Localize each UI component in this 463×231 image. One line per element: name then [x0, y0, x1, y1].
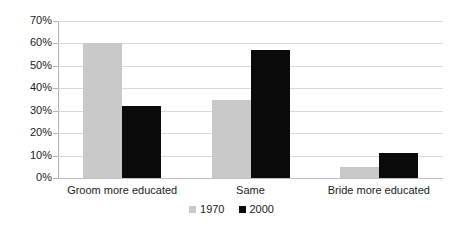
y-axis-tick-label: 0%	[6, 172, 52, 183]
gridline-baseline	[58, 178, 443, 179]
legend-item-1970: 1970	[189, 204, 224, 215]
bar-1970-1	[83, 43, 122, 178]
legend-swatch-1970-icon	[189, 206, 196, 213]
x-axis-category-label: Same	[186, 183, 314, 197]
bar-1970-2	[212, 100, 251, 179]
legend-label-1970: 1970	[200, 204, 224, 215]
y-axis-tick-label: 60%	[6, 37, 52, 48]
y-axis-tick-label: 30%	[6, 105, 52, 116]
bar-2000-2	[251, 50, 290, 178]
bar-1970-3	[340, 167, 379, 178]
y-axis-tick-label: 40%	[6, 82, 52, 93]
x-axis-category-labels: Groom more educatedSameBride more educat…	[58, 183, 443, 199]
y-axis-labels: 70% 60% 50% 40% 30% 20% 10% 0%	[0, 0, 52, 231]
y-axis-tick-label: 10%	[6, 150, 52, 161]
y-axis-tick-label: 70%	[6, 15, 52, 26]
y-axis-tick-label: 50%	[6, 60, 52, 71]
y-axis-tick-label: 20%	[6, 127, 52, 138]
bar-chart: 70% 60% 50% 40% 30% 20% 10% 0% Groom mor…	[0, 0, 463, 231]
chart-legend: 1970 2000	[0, 204, 463, 215]
bar-2000-3	[379, 153, 418, 178]
legend-swatch-2000-icon	[239, 206, 246, 213]
bar-2000-1	[122, 106, 161, 178]
legend-label-2000: 2000	[250, 204, 274, 215]
plot-area	[58, 21, 443, 178]
bars-layer	[58, 21, 443, 178]
x-axis-category-label: Groom more educated	[58, 183, 186, 197]
x-axis-category-label: Bride more educated	[315, 183, 443, 197]
legend-item-2000: 2000	[239, 204, 274, 215]
